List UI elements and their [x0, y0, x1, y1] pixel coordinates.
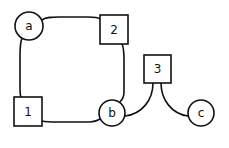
edge-1-b: [42, 119, 100, 122]
node-a[interactable]: a: [15, 12, 43, 40]
graph-diagram: a b c 1 2 3: [0, 0, 229, 148]
node-3-label: 3: [154, 62, 162, 76]
node-a-label: a: [25, 19, 32, 33]
node-b[interactable]: b: [99, 100, 125, 126]
node-c-label: c: [198, 106, 205, 120]
node-2[interactable]: 2: [100, 15, 128, 44]
node-2-label: 2: [110, 23, 118, 37]
node-b-label: b: [108, 106, 116, 120]
node-1[interactable]: 1: [14, 97, 42, 126]
edge-a-2: [42, 17, 100, 20]
node-1-label: 1: [24, 105, 32, 119]
edge-3-b: [125, 83, 153, 116]
edge-a-1: [20, 38, 22, 97]
node-3[interactable]: 3: [144, 55, 171, 83]
edge-2-b: [120, 44, 124, 102]
edge-3-c: [161, 83, 188, 116]
node-c[interactable]: c: [188, 100, 214, 126]
